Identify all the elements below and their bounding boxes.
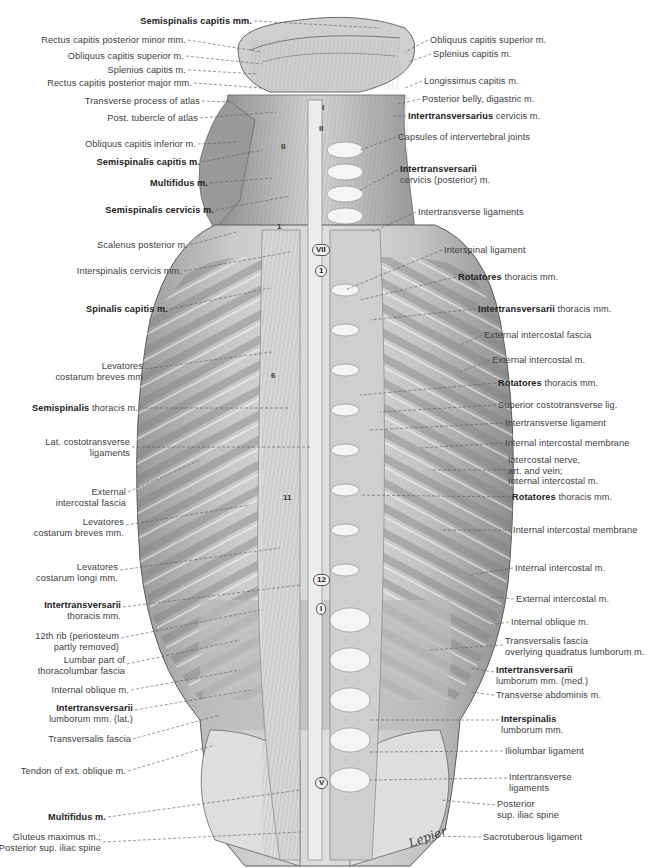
right-label: Sacrotuberous ligament <box>483 832 582 843</box>
right-label: Superior costotransverse lig. <box>498 400 617 411</box>
right-label: Splenius capitis m. <box>433 49 512 60</box>
right-label: Iliolumbar ligament <box>505 746 584 757</box>
left-label: Rectus capitis posterior minor mm. <box>41 35 186 46</box>
right-label: Rotatores thoracis mm. <box>458 272 558 283</box>
right-label: Intertransversarii thoracis mm. <box>478 304 611 315</box>
left-label: Splenius capitis m. <box>108 65 187 76</box>
right-label: Transversalis fasciaoverlying quadratus … <box>505 636 644 657</box>
left-label: Levatorescostarum breves mm. <box>34 517 124 538</box>
left-label: Multifidus m. <box>48 812 106 823</box>
right-label: Capsules of intervertebral joints <box>398 132 530 143</box>
vertebra-marker: I <box>316 603 326 615</box>
vertebra-marker: 11 <box>280 493 294 503</box>
left-label: Spinalis capitis m. <box>86 304 168 315</box>
left-label: Multifidus m. <box>150 178 208 189</box>
left-label: Scalenus posterior m. <box>97 240 188 251</box>
left-label: Semispinalis cervicis m. <box>105 205 214 216</box>
left-label: Rectus capitis posterior major mm. <box>47 78 192 89</box>
right-label: Intercostal nerve,art. and vein;Internal… <box>508 455 598 487</box>
vertebra-marker: 12 <box>313 574 330 586</box>
left-label: Externalintercostal fascia <box>56 487 126 508</box>
skull-base <box>238 17 415 92</box>
left-label: Intertransversariithoracis mm. <box>44 600 121 621</box>
right-label: Obliquus capitis superior m. <box>430 35 546 46</box>
left-label: Transversalis fascia <box>48 734 131 745</box>
right-label: Intertransverseligaments <box>509 772 572 793</box>
right-label: Intertransversarius cervicis m. <box>408 111 540 122</box>
left-label: Transverse process of atlas <box>85 96 200 107</box>
left-label: Lumbar part ofthoracolumbar fascia <box>38 655 125 676</box>
right-label: Transverse abdominis m. <box>496 690 601 701</box>
right-label: Interspinal ligament <box>444 245 526 256</box>
left-label: Tendon of ext. oblique m. <box>21 766 126 777</box>
right-label: Posterior belly, digastric m. <box>422 94 535 105</box>
right-label: External intercostal fascia <box>484 330 591 341</box>
right-label: Intertransversariicervicis (posterior) m… <box>400 164 490 185</box>
left-label: Obliquus capitis inferior m. <box>85 139 196 150</box>
left-label: Semispinalis capitis m. <box>97 157 200 168</box>
right-label: Interspinalislumborum mm. <box>501 714 563 735</box>
left-label: Interspinalis cervicis mm. <box>77 266 182 277</box>
left-label: Levatorescostarum breves mm <box>55 361 143 382</box>
left-label: Semispinalis capitis mm. <box>140 16 252 27</box>
left-label: 12th rib (periosteumpartly removed) <box>35 631 119 652</box>
left-label: Semispinalis thoracis m. <box>32 403 138 414</box>
vertebra-marker: VII <box>312 244 330 256</box>
right-label: Rotatores thoracis mm. <box>498 378 598 389</box>
right-label: Rotatores thoracis mm. <box>512 492 612 503</box>
right-label: External intercostal m. <box>516 594 609 605</box>
right-label: Intertransverse ligaments <box>418 207 524 218</box>
right-label: Internal oblique m. <box>511 617 589 628</box>
right-label: Intertransversariilumborum mm. (med.) <box>496 665 588 686</box>
left-label: Post. tubercle of atlas <box>107 113 198 124</box>
right-label: Intertransverse ligament <box>505 418 606 429</box>
vertebra-marker: I <box>319 103 327 113</box>
left-label: Obliquus capitis superior m. <box>68 51 184 62</box>
left-label: Lat. costotransverseligaments <box>45 437 130 458</box>
right-label: Internal intercostal membrane <box>513 525 637 536</box>
right-label: Longissimus capitis m. <box>424 76 519 87</box>
torso <box>137 225 514 866</box>
left-label: Intertransversariilumborum mm. (lat.) <box>49 703 133 724</box>
right-label: Internal intercostal m. <box>515 563 605 574</box>
left-label: Levatorescostarum longi mm. <box>36 562 118 583</box>
left-label: Internal oblique m. <box>52 685 130 696</box>
left-label: Gluteus maximus m.;Posterior sup. iliac … <box>0 832 101 853</box>
right-label: Internal intercostal membrane <box>505 438 629 449</box>
right-label: Posteriorsup. iliac spine <box>497 799 559 820</box>
right-label: External intercostal m. <box>492 355 585 366</box>
